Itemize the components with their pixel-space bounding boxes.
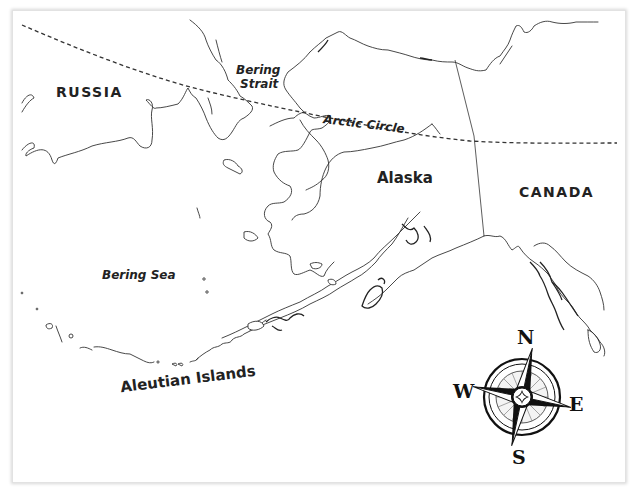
label-arctic-circle: Arctic Circle: [322, 112, 406, 136]
compass-rose: [463, 338, 582, 457]
aleutian-islands-chain: [46, 314, 304, 366]
label-bering-strait-1: Bering: [236, 63, 281, 77]
compass-north-label: N: [517, 326, 534, 348]
label-aleutian-islands: Aleutian Islands: [119, 362, 256, 396]
label-canada: CANADA: [519, 184, 594, 200]
label-alaska: Alaska: [377, 169, 433, 187]
compass-west-label: W: [452, 380, 475, 402]
bering-sea-islands: [21, 159, 258, 309]
label-bering-strait-2: Strait: [240, 77, 280, 91]
label-russia: RUSSIA: [56, 84, 123, 100]
compass-south-label: S: [512, 446, 526, 468]
us-canada-border: [455, 60, 484, 236]
compass-east-label: E: [569, 393, 583, 415]
alaska-map: RUSSIA CANADA Alaska Bering Strait Arcti…: [0, 0, 639, 492]
label-bering-sea: Bering Sea: [102, 268, 176, 282]
